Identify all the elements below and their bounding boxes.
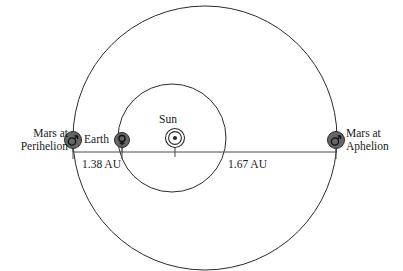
mars-aphelion-label: Mars at Aphelion — [346, 127, 403, 153]
mars-orbit-circle — [73, 6, 337, 270]
mars-symbol-icon — [328, 132, 345, 149]
distance-label-earth-mars: 1.38 AU — [82, 158, 121, 171]
earth-orbit-circle — [118, 84, 226, 192]
sun-symbol-icon — [166, 129, 185, 148]
earth-label: Earth — [84, 133, 109, 146]
mars-perihelion-label-line2: Perihelion — [10, 140, 68, 153]
mars-perihelion-label: Mars at Perihelion — [10, 127, 68, 153]
mars-perihelion-label-line1: Mars at — [10, 127, 68, 140]
earth-symbol-icon — [115, 133, 130, 148]
sun-label: Sun — [159, 113, 177, 126]
mars-aphelion-label-line1: Mars at — [346, 127, 403, 140]
mars-aphelion-label-line2: Aphelion — [346, 140, 403, 153]
distance-label-sun-mars: 1.67 AU — [228, 158, 267, 171]
orbit-diagram: Mars at Perihelion Earth Sun Mars at Aph… — [0, 0, 403, 271]
